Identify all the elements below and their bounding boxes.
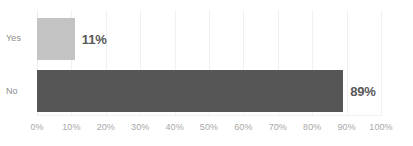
x-axis-baseline xyxy=(37,115,381,116)
x-tick-label-20pct: 20% xyxy=(97,122,115,132)
plot-area: 11% 89% xyxy=(37,10,381,116)
bar-row-no: 89% xyxy=(37,70,381,112)
category-label-no: No xyxy=(6,86,34,96)
x-tick-label-10pct: 10% xyxy=(62,122,80,132)
x-tick-label-0pct: 0% xyxy=(30,122,43,132)
x-tick-label-40pct: 40% xyxy=(165,122,183,132)
x-tick-label-100pct: 100% xyxy=(369,122,392,132)
gridline-100pct xyxy=(381,10,382,116)
x-tick-label-70pct: 70% xyxy=(269,122,287,132)
category-label-yes: Yes xyxy=(6,33,34,43)
bar-yes[interactable] xyxy=(37,18,75,60)
x-tick-label-30pct: 30% xyxy=(131,122,149,132)
x-tick-label-50pct: 50% xyxy=(200,122,218,132)
x-axis-tick-labels: 0%10%20%30%40%50%60%70%80%90%100% xyxy=(37,122,381,136)
bar-value-label-yes: 11% xyxy=(82,32,107,47)
x-tick-label-60pct: 60% xyxy=(234,122,252,132)
x-tick-label-80pct: 80% xyxy=(303,122,321,132)
x-tick-label-90pct: 90% xyxy=(337,122,355,132)
bar-row-yes: 11% xyxy=(37,18,381,60)
horizontal-bar-chart: Yes No 11% 89% 0%10%20%30%40%50%60%70%80… xyxy=(0,0,413,146)
bar-no[interactable] xyxy=(37,70,343,112)
bar-value-label-no: 89% xyxy=(350,84,375,99)
